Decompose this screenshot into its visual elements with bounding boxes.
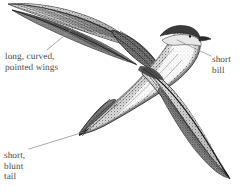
label-long-curved-pointed-wings: long, curved, pointed wings: [5, 51, 58, 72]
figure-canvas: long, curved, pointed wings short bill s…: [0, 0, 247, 193]
bird-illustration: [0, 0, 247, 193]
bill-shape: [199, 37, 211, 41]
head-and-bill: [160, 25, 211, 46]
label-short-bill: short bill: [212, 54, 231, 75]
label-short-blunt-tail: short, blunt tail: [4, 150, 25, 182]
lower-wing: [130, 60, 240, 185]
eye: [189, 35, 191, 37]
leader-line-tail: [29, 132, 84, 149]
